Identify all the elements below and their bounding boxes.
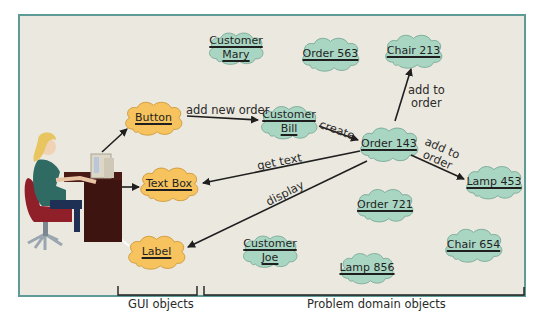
gui-object-button: Button <box>122 96 185 140</box>
node-label: Chair 213 <box>387 44 440 58</box>
node-label: Lamp 453 <box>466 175 521 189</box>
node-label: Label <box>142 245 172 259</box>
gui-object-label: Label <box>125 230 188 274</box>
node-label: Customer <box>262 108 315 122</box>
node-label: Bill <box>281 122 298 136</box>
node-label: Text Box <box>146 177 192 191</box>
bracket-gui <box>118 286 197 295</box>
user-at-computer-illustration <box>25 133 122 251</box>
domain-object-customer-joe: CustomerJoe <box>240 228 300 274</box>
node-label: Joe <box>262 251 279 265</box>
domain-object-lamp-453: Lamp 453 <box>463 161 525 203</box>
edge-label-add-to-chair-2: order <box>411 97 442 110</box>
node-label: Button <box>135 111 172 125</box>
edge-label-add-new-order: add new order <box>186 104 269 117</box>
domain-object-chair-654: Chair 654 <box>442 223 505 267</box>
node-label: Lamp 856 <box>339 261 394 275</box>
domain-object-chair-213: Chair 213 <box>382 29 445 73</box>
group-label-gui-objects: GUI objects <box>128 297 194 311</box>
node-label: Order 721 <box>357 198 413 212</box>
node-label: Mary <box>222 48 249 62</box>
node-label: Customer <box>209 34 262 48</box>
domain-object-lamp-856: Lamp 856 <box>338 247 396 289</box>
node-label: Order 563 <box>303 47 359 61</box>
domain-object-customer-mary: CustomerMary <box>206 26 266 70</box>
node-label: Chair 654 <box>447 238 500 252</box>
group-label-problem-domain-objects: Problem domain objects <box>307 297 446 311</box>
gui-object-textbox: Text Box <box>137 162 201 206</box>
domain-object-order-563: Order 563 <box>299 33 362 75</box>
domain-object-order-143: Order 143 <box>357 121 421 167</box>
domain-object-order-721: Order 721 <box>354 183 416 227</box>
node-label: Customer <box>243 237 296 251</box>
node-label: Order 143 <box>361 137 417 151</box>
